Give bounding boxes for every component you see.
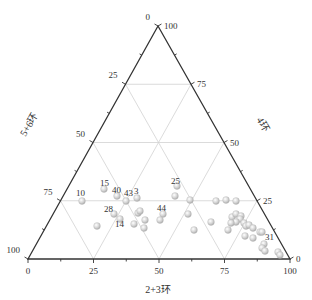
data-point	[250, 225, 257, 232]
point-labels: 1015404332814442531	[76, 176, 274, 242]
data-point	[172, 193, 179, 200]
data-point	[157, 217, 164, 224]
bottom-tick-label: 25	[89, 266, 99, 276]
data-point	[233, 198, 240, 205]
data-point	[142, 217, 149, 224]
data-point	[208, 219, 215, 226]
data-point	[191, 227, 198, 234]
axis-tick-labels: 025507510002550751000255075100	[7, 12, 302, 276]
right-tick-label: 0	[296, 254, 301, 264]
ternary-chart: 025507510002550751000255075100 2+3环 5+6环…	[0, 0, 312, 300]
bottom-tick-label: 75	[220, 266, 230, 276]
data-point	[262, 248, 269, 255]
data-point	[250, 235, 257, 242]
data-point	[223, 197, 230, 204]
data-point	[94, 223, 101, 230]
left-tick-label: 50	[76, 129, 86, 139]
bottom-tick-label: 100	[283, 266, 297, 276]
point-label: 10	[76, 188, 86, 198]
point-label: 31	[265, 232, 274, 242]
right-tick-label: 50	[230, 138, 240, 148]
point-label: 28	[104, 204, 114, 214]
left-tick-label: 0	[146, 12, 151, 22]
grid-line	[126, 84, 225, 259]
point-label: 15	[100, 178, 110, 188]
data-point	[213, 198, 220, 205]
point-label: 14	[115, 219, 125, 229]
data-point	[137, 208, 144, 215]
point-label: 40	[112, 185, 122, 195]
left-tick-label: 100	[7, 245, 21, 255]
data-point	[141, 225, 148, 232]
left-tick-label: 75	[44, 187, 54, 197]
point-label: 25	[171, 176, 181, 186]
point-label: 43	[124, 188, 134, 198]
point-label: 3	[134, 186, 139, 196]
data-point	[79, 198, 86, 205]
bottom-tick-label: 50	[155, 266, 165, 276]
left-axis-title: 5+6环	[18, 110, 40, 138]
right-tick-label: 100	[164, 21, 178, 31]
right-tick-label: 75	[197, 79, 207, 89]
data-point	[225, 227, 232, 234]
data-point	[185, 211, 192, 218]
data-point	[228, 220, 235, 227]
data-point	[131, 221, 138, 228]
right-axis-title: 4环	[255, 115, 272, 133]
data-point	[277, 252, 284, 259]
right-tick-label: 25	[263, 196, 273, 206]
data-point	[123, 198, 130, 205]
bottom-axis-title: 2+3环	[145, 284, 171, 295]
point-label: 44	[157, 203, 167, 213]
grid-line	[94, 84, 192, 259]
data-point	[187, 197, 194, 204]
left-tick-label: 25	[109, 70, 119, 80]
grid-line	[61, 201, 94, 259]
data-point	[242, 233, 249, 240]
bottom-tick-label: 0	[26, 266, 31, 276]
